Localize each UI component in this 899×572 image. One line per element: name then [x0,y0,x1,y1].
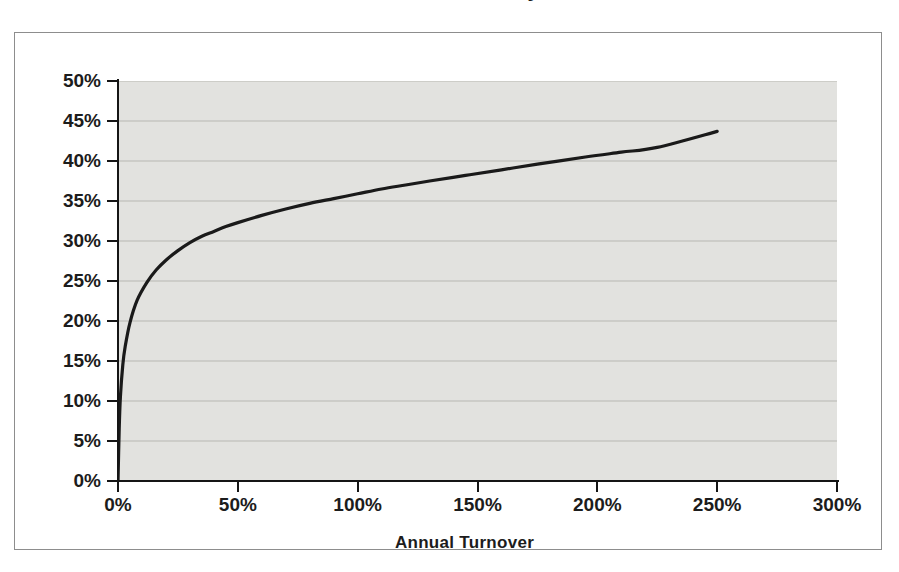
plot-canvas [118,81,837,481]
x-axis-tick-label: 200% [542,495,652,514]
x-axis-tick [716,481,718,492]
x-axis-tick-label: 100% [303,495,413,514]
x-axis-tick [357,481,359,492]
x-axis-tick [836,481,838,492]
x-axis-tick-label: 50% [183,495,293,514]
chart-frame: 0%5%10%15%20%25%30%35%40%45%50% 0%50%100… [14,32,882,550]
y-axis-tick [107,200,118,202]
x-axis-title: Annual Turnover [15,533,899,553]
y-axis-tick-label: 20% [15,311,101,330]
y-axis-tick [107,440,118,442]
y-axis-tick [107,240,118,242]
y-axis-tick-label: 45% [15,111,101,130]
chart-title-cutoff: Annual Turnover vs. Recovery [0,0,899,30]
y-axis-tick-label: 40% [15,151,101,170]
y-axis-tick-label: 50% [15,71,101,90]
x-axis-tick-label: 300% [782,495,892,514]
y-axis-tick-label: 35% [15,191,101,210]
data-series-group [118,131,717,481]
y-axis-tick [107,360,118,362]
x-axis-tick [477,481,479,492]
x-axis-tick-label: 0% [63,495,173,514]
y-axis-tick [107,280,118,282]
y-axis-tick-label: 30% [15,231,101,250]
x-axis-tick-label: 250% [662,495,772,514]
y-axis-tick-label: 10% [15,391,101,410]
y-axis-tick [107,80,118,82]
y-axis-tick-label: 0% [15,471,101,490]
y-axis-tick [107,120,118,122]
plot-area [118,81,837,481]
x-axis-tick [117,481,119,492]
x-axis-tick [237,481,239,492]
y-axis-tick-labels: 0%5%10%15%20%25%30%35%40%45%50% [15,33,101,551]
x-axis-tick [596,481,598,492]
y-axis-tick [107,160,118,162]
y-axis-tick [107,320,118,322]
series-line [118,131,717,481]
chart-title-text: Annual Turnover vs. Recovery [232,0,539,2]
x-axis-tick-label: 150% [423,495,533,514]
gridlines [118,81,837,441]
y-axis-tick-label: 15% [15,351,101,370]
y-axis-tick-label: 25% [15,271,101,290]
chart-figure: Annual Turnover vs. Recovery 0%5%10%15%2… [0,0,899,572]
y-axis-tick [107,400,118,402]
y-axis-tick-label: 5% [15,431,101,450]
